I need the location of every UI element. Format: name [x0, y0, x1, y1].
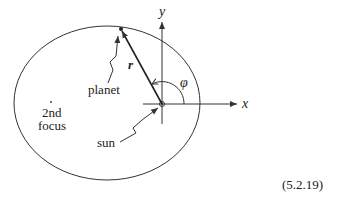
equation-number: (5.2.19)	[282, 177, 323, 192]
sun-label: sun	[97, 135, 116, 150]
second-focus-dot	[50, 101, 52, 103]
x-axis-label: x	[241, 96, 249, 111]
planet-pointer	[108, 36, 118, 83]
orbit-diagram: y x r φ planet 2nd focus sun (5.2.19)	[0, 0, 346, 203]
planet-label: planet	[88, 82, 120, 97]
y-axis-label: y	[157, 4, 166, 19]
radius-label: r	[128, 57, 134, 72]
orbit-ellipse	[14, 26, 200, 180]
second-focus-label-line2: focus	[38, 118, 66, 133]
sun-pointer	[120, 108, 158, 142]
angle-label: φ	[180, 75, 188, 90]
planet-marker	[119, 27, 123, 31]
